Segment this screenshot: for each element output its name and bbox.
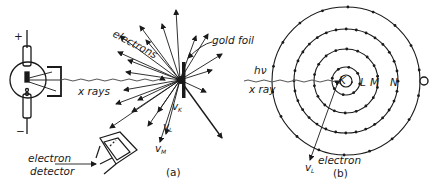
electron-label: electron xyxy=(318,154,361,166)
panel-b-label: (b) xyxy=(333,167,348,179)
minus-sign: − xyxy=(16,125,25,137)
scatter-center xyxy=(177,76,185,84)
foil-pointer xyxy=(188,42,212,58)
xray-label-b: x ray xyxy=(248,83,276,95)
xray-tube xyxy=(10,30,61,134)
panel-a-label: (a) xyxy=(166,166,181,178)
shell-labels: K L M N xyxy=(339,74,398,88)
svg-text:L: L xyxy=(360,76,366,88)
svg-text:L: L xyxy=(169,126,172,133)
plus-sign: + xyxy=(14,30,23,42)
svg-text:M: M xyxy=(161,148,167,155)
velocity-labels-a: v K v L v M xyxy=(155,100,183,155)
xray-wave-b xyxy=(244,80,340,82)
svg-text:M: M xyxy=(370,76,379,88)
shell-o-marker xyxy=(420,77,428,85)
xray-label: x rays xyxy=(77,85,111,97)
electron-detector xyxy=(96,132,137,174)
svg-text:N: N xyxy=(390,76,398,88)
velocity-subscript-b: L xyxy=(311,167,314,174)
photon-label: hν xyxy=(254,64,267,76)
gold-foil-label: gold foil xyxy=(212,34,254,46)
photoelectric-diagram: + − x rays gold foil electrons v K v xyxy=(0,0,434,188)
detector-label-line1: electron xyxy=(28,152,71,164)
svg-text:K: K xyxy=(339,74,347,86)
ejected-electron-path xyxy=(310,82,338,160)
detector-label-line2: detector xyxy=(30,165,75,177)
xray-wave-a xyxy=(61,79,165,81)
svg-text:K: K xyxy=(178,106,183,113)
electrons-label: electrons xyxy=(111,27,160,61)
